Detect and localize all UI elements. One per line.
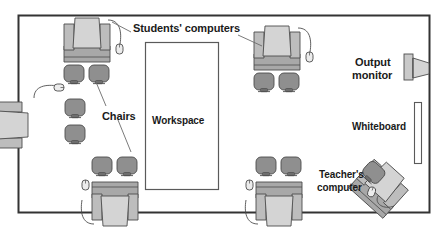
label-workspace: Workspace [152, 115, 204, 126]
mouse-icon [82, 180, 89, 190]
mouse-icon [246, 180, 253, 190]
mouse-icon [54, 84, 64, 91]
student-station-bottom-right [245, 157, 302, 226]
student-station-top-right [254, 26, 313, 92]
output-monitor-device [404, 54, 429, 80]
student-station-bottom-left [81, 157, 138, 226]
label-whiteboard: Whiteboard [352, 121, 406, 132]
classroom-diagram: Students' computers Chairs Workspace Out… [0, 0, 448, 238]
label-teachers-computer-line1: Teacher's [319, 169, 364, 180]
label-teachers-computer-line2: computer [317, 182, 362, 193]
label-output-monitor-line1: Output [355, 56, 390, 68]
label-output-monitor-line2: monitor [352, 69, 392, 81]
leader-students-left [112, 22, 131, 32]
leader-chairs-up [96, 82, 106, 106]
leader-chairs-down [118, 120, 131, 152]
mouse-icon [306, 52, 313, 62]
label-chairs: Chairs [102, 110, 136, 122]
mouse-icon [116, 44, 123, 54]
student-station-top-left [64, 18, 123, 84]
student-station-left [0, 84, 85, 148]
whiteboard-panel [415, 103, 422, 164]
diagram-canvas [0, 0, 448, 238]
label-students-computers: Students' computers [133, 22, 240, 34]
